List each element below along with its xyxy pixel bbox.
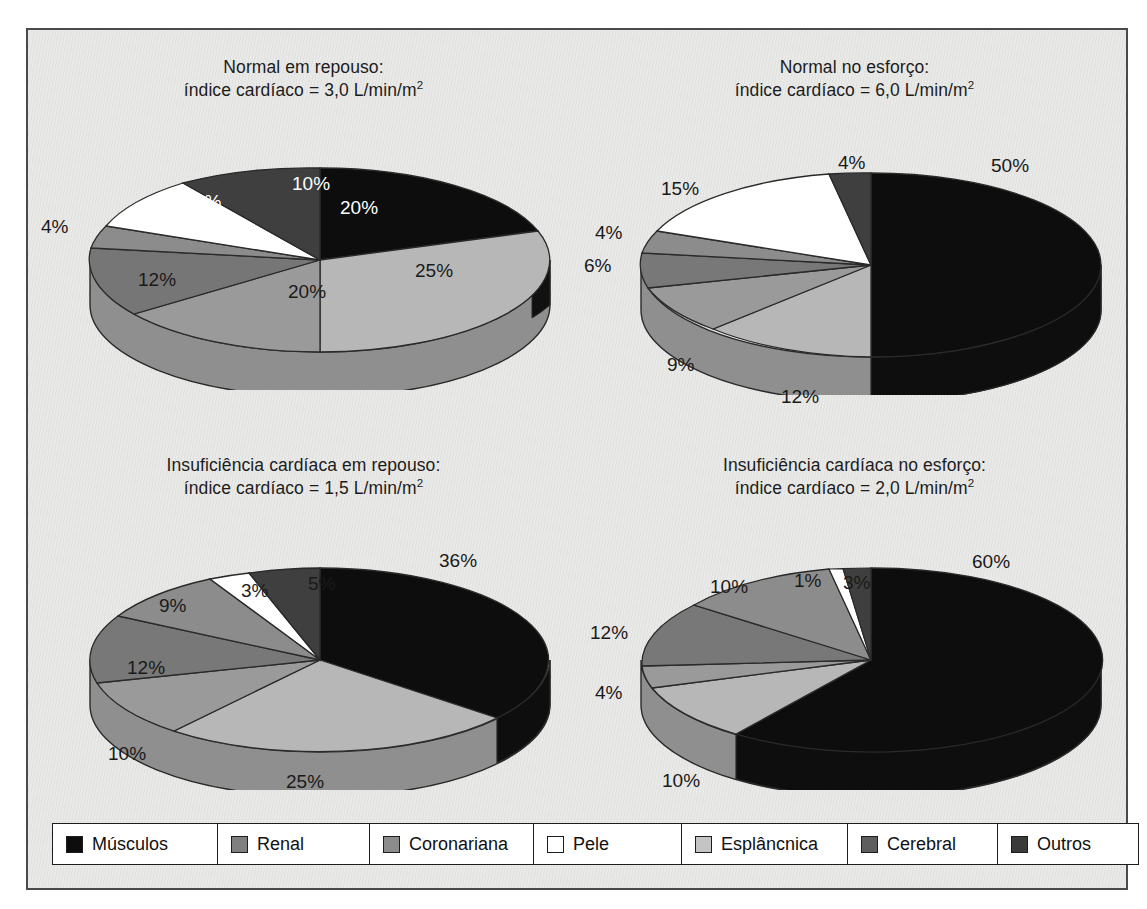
legend-item-pele[interactable]: Pele	[534, 824, 682, 864]
slice-label-esplancnica: 25%	[286, 771, 324, 793]
legend-item-label: Outros	[1037, 834, 1091, 855]
panel-title-line2: índice cardíaco = 1,5 L/min/m2	[28, 477, 579, 500]
legend-item-label: Pele	[573, 834, 609, 855]
panel-normal-esforco: Normal no esforço: índice cardíaco = 6,0…	[579, 30, 1130, 430]
legend-swatch-icon	[547, 836, 564, 853]
panel-title-normal-repouso: Normal em repouso: índice cardíaco = 3,0…	[28, 56, 579, 102]
slice-label-cerebral: 4%	[595, 222, 622, 244]
slice-label-outros: 10%	[292, 173, 330, 195]
pie-chart-normal-repouso	[70, 130, 570, 390]
slice-label-musculos: 60%	[972, 551, 1010, 573]
legend-item-cerebral[interactable]: Cerebral	[848, 824, 998, 864]
slice-label-musculos: 50%	[991, 155, 1029, 177]
panel-normal-repouso: Normal em repouso: índice cardíaco = 3,0…	[28, 30, 579, 430]
panel-title-line1: Normal no esforço:	[780, 57, 930, 77]
pie-chart-normal-esforco	[621, 135, 1121, 395]
slice-label-cerebral: 4%	[41, 216, 68, 238]
legend-item-label: Coronariana	[409, 834, 508, 855]
slice-label-esplancnica: 25%	[415, 260, 453, 282]
pie-chart-insuficiencia-esforco	[621, 530, 1121, 790]
legend-item-musculos[interactable]: Músculos	[53, 824, 218, 864]
panel-title-normal-esforco: Normal no esforço: índice cardíaco = 6,0…	[579, 56, 1130, 102]
slice-label-pele: 9%	[194, 191, 221, 213]
slice-label-coronariana: 12%	[127, 657, 165, 679]
slice-label-coronariana: 12%	[590, 622, 628, 644]
legend-item-outros[interactable]: Outros	[998, 824, 1138, 864]
slice-label-musculos: 20%	[340, 197, 378, 219]
slice-label-outros: 4%	[838, 152, 865, 174]
panel-title-line1: Insuficiência cardíaca no esforço:	[723, 455, 986, 475]
legend-swatch-icon	[695, 836, 712, 853]
slice-label-outros: 5%	[308, 573, 335, 595]
panel-title-insuficiencia-esforco: Insuficiência cardíaca no esforço: índic…	[579, 454, 1130, 500]
slice-label-renal: 9%	[667, 354, 694, 376]
panel-title-line2: índice cardíaco = 2,0 L/min/m2	[579, 477, 1130, 500]
legend-swatch-icon	[1011, 836, 1028, 853]
pie-svg	[621, 135, 1121, 395]
panel-insuficiencia-repouso: Insuficiência cardíaca em repouso: índic…	[28, 430, 579, 820]
legend-swatch-icon	[231, 836, 248, 853]
legend-swatch-icon	[66, 836, 83, 853]
legend-item-label: Renal	[257, 834, 304, 855]
slice-label-renal: 10%	[108, 743, 146, 765]
slice-label-pele: 1%	[794, 570, 821, 592]
panel-insuficiencia-esforco: Insuficiência cardíaca no esforço: índic…	[579, 430, 1130, 820]
pie-svg	[621, 530, 1121, 790]
panel-title-line1: Normal em repouso:	[223, 57, 383, 77]
slice-label-coronariana: 6%	[584, 255, 611, 277]
slice-label-pele: 15%	[661, 178, 699, 200]
slice-label-cerebral: 9%	[159, 595, 186, 617]
slice-label-pele: 3%	[241, 580, 268, 602]
panel-title-line2: índice cardíaco = 3,0 L/min/m2	[28, 79, 579, 102]
legend-item-esplancnica[interactable]: Esplâncnica	[682, 824, 848, 864]
slice-label-renal: 4%	[595, 682, 622, 704]
legend-item-renal[interactable]: Renal	[218, 824, 370, 864]
legend-item-label: Músculos	[92, 834, 168, 855]
slice-label-renal: 20%	[288, 281, 326, 303]
legend-item-coronariana[interactable]: Coronariana	[370, 824, 534, 864]
legend-swatch-icon	[383, 836, 400, 853]
panel-title-line2: índice cardíaco = 6,0 L/min/m2	[579, 79, 1130, 102]
slice-label-cerebral: 10%	[710, 576, 748, 598]
panel-title-insuficiencia-repouso: Insuficiência cardíaca em repouso: índic…	[28, 454, 579, 500]
pie-svg	[70, 130, 570, 390]
figure-frame: Normal em repouso: índice cardíaco = 3,0…	[26, 28, 1128, 890]
slice-label-outros: 3%	[843, 572, 870, 594]
slice-label-esplancnica: 10%	[662, 770, 700, 792]
legend-swatch-icon	[861, 836, 878, 853]
legend-item-label: Esplâncnica	[721, 834, 818, 855]
legend: Músculos Renal Coronariana Pele Esplâncn…	[52, 823, 1139, 865]
slice-label-esplancnica: 12%	[781, 386, 819, 408]
slice-label-musculos: 36%	[439, 550, 477, 572]
panel-title-line1: Insuficiência cardíaca em repouso:	[167, 455, 441, 475]
slice-label-coronariana: 12%	[138, 269, 176, 291]
legend-item-label: Cerebral	[887, 834, 956, 855]
